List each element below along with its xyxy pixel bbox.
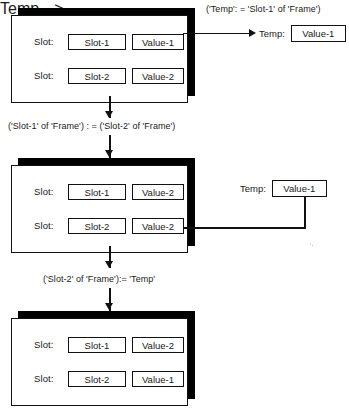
slot-value-cell: Value-2 <box>132 184 184 200</box>
frame-card-initial: Slot: Slot-1 Value-1 Slot: Slot-2 Value-… <box>11 8 188 96</box>
slot-value-cell: Value-1 <box>132 34 184 50</box>
step1-caption: ('Temp': = 'Slot-1' of 'Frame') <box>206 4 321 14</box>
arrow-down-icon <box>105 111 113 118</box>
slot-value-cell: Value-2 <box>132 68 184 84</box>
scan-speck <box>310 243 311 244</box>
arrow-right-icon <box>249 29 256 37</box>
slot-value-cell: Value-2 <box>132 218 184 234</box>
frame-card-after-copy: Slot: Slot-1 Value-2 Slot: Slot-2 Value-… <box>11 158 188 246</box>
slot-name-cell: Slot-1 <box>68 184 126 200</box>
temp-label: Temp: <box>259 28 285 39</box>
slot-value-cell: Value-1 <box>132 371 184 387</box>
frame-swap-diagram: Slot: Slot-1 Value-1 Slot: Slot-2 Value-… <box>0 0 349 410</box>
step3-caption: ('Slot-2' of 'Frame'):= 'Temp' <box>43 274 155 284</box>
temp-register-initial: Temp: Value-1 <box>259 25 346 42</box>
connector-value1-to-temp <box>183 33 250 35</box>
table-row: Slot: Slot-2 Value-2 <box>12 216 187 236</box>
slot-value-cell: Value-2 <box>132 337 184 353</box>
scan-speck <box>312 245 313 246</box>
slot-name-cell: Slot-2 <box>68 218 126 234</box>
slot-name-cell: Slot-1 <box>68 337 126 353</box>
table-row: Slot: Slot-1 Value-2 <box>12 335 187 355</box>
slot-label: Slot: <box>34 216 54 236</box>
arrow-down-icon <box>105 303 113 310</box>
connector-slot2-to-temp-vertical <box>304 197 306 228</box>
slot-label: Slot: <box>34 369 54 389</box>
slot-label: Slot: <box>34 182 54 202</box>
temp-value-box: Value-1 <box>272 180 327 197</box>
temp-register-after-copy: Temp: Value-1 <box>240 180 327 197</box>
slot-label: Slot: <box>34 32 54 52</box>
table-row: Slot: Slot-2 Value-1 <box>12 369 187 389</box>
table-row: Slot: Slot-1 Value-1 <box>12 32 187 52</box>
frame-panel: Slot: Slot-1 Value-2 Slot: Slot-2 Value-… <box>11 318 188 406</box>
table-row: Slot: Slot-2 Value-2 <box>12 66 187 86</box>
frame-panel: Slot: Slot-1 Value-1 Slot: Slot-2 Value-… <box>11 15 188 103</box>
temp-label: Temp: <box>240 183 266 194</box>
slot-name-cell: Slot-2 <box>68 68 126 84</box>
step2-caption: ('Slot-1' of 'Frame') : = ('Slot-2' of '… <box>8 121 175 131</box>
slot-name-cell: Slot-2 <box>68 371 126 387</box>
slot-label: Slot: <box>34 66 54 86</box>
temp-value-box: Value-1 <box>291 25 346 42</box>
table-row: Slot: Slot-1 Value-2 <box>12 182 187 202</box>
frame-card-final: Slot: Slot-1 Value-2 Slot: Slot-2 Value-… <box>11 311 188 399</box>
connector-slot2-to-temp-horizontal <box>183 227 306 229</box>
frame-panel: Slot: Slot-1 Value-2 Slot: Slot-2 Value-… <box>11 165 188 253</box>
arrow-down-icon <box>105 150 113 157</box>
arrow-down-icon <box>105 261 113 268</box>
slot-label: Slot: <box>34 335 54 355</box>
slot-name-cell: Slot-1 <box>68 34 126 50</box>
